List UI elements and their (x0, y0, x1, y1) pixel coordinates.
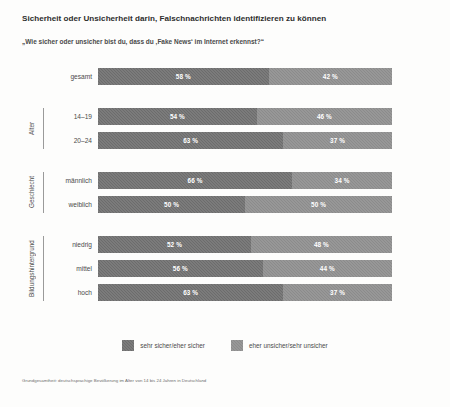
stacked-bar: 63 %37 % (98, 132, 392, 149)
bar-segment-sehr-sicher: 54 % (98, 108, 257, 125)
bar-segment-sehr-sicher: 63 % (98, 284, 283, 301)
legend-label: sehr sicher/eher sicher (140, 342, 205, 349)
bar-segment-sehr-sicher: 52 % (98, 236, 251, 253)
plot-area: gesamt58 %42 %14–1954 %46 %20–2463 %37 %… (0, 68, 450, 336)
bar-segment-eher-unsicher: 37 % (283, 284, 392, 301)
group-label-Alter: Alter (23, 108, 40, 149)
row-label-14–19: 14–19 (0, 108, 92, 125)
stacked-bar: 52 %48 % (98, 236, 392, 253)
bar-segment-eher-unsicher: 44 % (263, 260, 392, 277)
bar-segment-sehr-sicher: 58 % (98, 68, 269, 85)
row-label-20–24: 20–24 (0, 132, 92, 149)
row-label-niedrig: niedrig (0, 236, 92, 253)
group-label-Geschlecht: Geschlecht (23, 172, 40, 213)
legend-item-eher-unsicher: eher unsicher/sehr unsicher (231, 340, 328, 351)
chart-row: gesamt58 %42 % (0, 68, 450, 85)
chart-subtitle: „Wie sicher oder unsicher bist du, dass … (22, 38, 264, 45)
row-label-gesamt: gesamt (0, 68, 92, 85)
bar-segment-sehr-sicher: 66 % (98, 172, 292, 189)
bar-segment-sehr-sicher: 50 % (98, 196, 245, 213)
chart-row: männlich66 %34 % (0, 172, 450, 189)
row-label-männlich: männlich (0, 172, 92, 189)
bar-segment-eher-unsicher: 37 % (283, 132, 392, 149)
bar-segment-eher-unsicher: 50 % (245, 196, 392, 213)
chart-title: Sicherheit oder Unsicherheit darin, Fals… (22, 14, 326, 23)
bar-segment-eher-unsicher: 42 % (269, 68, 392, 85)
stacked-bar: 66 %34 % (98, 172, 392, 189)
group-axis-line (43, 108, 44, 149)
chart-row: hoch63 %37 % (0, 284, 450, 301)
chart-row: 14–1954 %46 % (0, 108, 450, 125)
group-axis-line (43, 172, 44, 213)
chart-row: 20–2463 %37 % (0, 132, 450, 149)
chart-row: weiblich50 %50 % (0, 196, 450, 213)
row-label-hoch: hoch (0, 284, 92, 301)
stacked-bar: 58 %42 % (98, 68, 392, 85)
group-label-Bildungshintergrund: Bildungshintergrund (23, 236, 40, 301)
stacked-bar: 50 %50 % (98, 196, 392, 213)
bar-segment-eher-unsicher: 34 % (292, 172, 392, 189)
stacked-bar: 54 %46 % (98, 108, 392, 125)
chart-page: Sicherheit oder Unsicherheit darin, Fals… (0, 0, 450, 407)
chart-row: niedrig52 %48 % (0, 236, 450, 253)
bar-segment-sehr-sicher: 63 % (98, 132, 283, 149)
legend-item-sehr-sicher: sehr sicher/eher sicher (122, 340, 205, 351)
legend-swatch-icon (231, 340, 243, 351)
row-label-mittel: mittel (0, 260, 92, 277)
chart-row: mittel56 %44 % (0, 260, 450, 277)
legend-label: eher unsicher/sehr unsicher (249, 342, 328, 349)
bar-segment-eher-unsicher: 46 % (257, 108, 392, 125)
stacked-bar: 63 %37 % (98, 284, 392, 301)
legend-swatch-icon (122, 340, 134, 351)
row-label-weiblich: weiblich (0, 196, 92, 213)
chart-footnote: Grundgesamtheit: deutschsprachige Bevölk… (22, 378, 206, 383)
bar-segment-sehr-sicher: 56 % (98, 260, 263, 277)
chart-legend: sehr sicher/eher sicher eher unsicher/se… (0, 340, 450, 351)
bar-segment-eher-unsicher: 48 % (251, 236, 392, 253)
group-axis-line (43, 236, 44, 301)
stacked-bar: 56 %44 % (98, 260, 392, 277)
